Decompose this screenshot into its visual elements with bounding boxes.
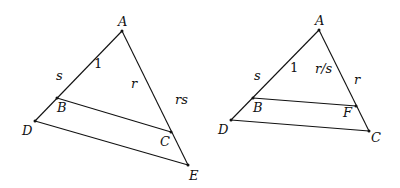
segment-AD [231,30,319,120]
label-C: C [371,130,381,145]
label-length-AB: 1 [290,60,298,75]
label-length-BD: s [254,68,261,83]
point-D [230,119,233,122]
segment-BC [57,98,171,132]
segment-DC [231,120,369,131]
label-length-AE: rs [175,92,188,107]
right-figure: A B F D C 1 s r/s r [217,13,381,145]
label-length-AC: r [354,72,361,87]
left-figure: A B C D E 1 s r rs [21,14,199,183]
label-length-AC: r [131,76,138,91]
label-length-BD: s [56,68,63,83]
label-length-AB: 1 [94,56,102,71]
label-C: C [160,134,170,149]
label-B: B [252,100,263,115]
similar-triangles-diagram: A B C D E 1 s r rs A B F D C 1 s r/s r [0,0,400,188]
point-A [121,30,124,33]
label-length-AF: r/s [315,61,333,76]
label-A: A [117,14,127,29]
point-D [34,120,37,123]
label-A: A [314,13,324,28]
point-F [355,105,358,108]
point-A [318,29,321,32]
label-D: D [21,123,33,138]
label-E: E [188,168,199,183]
segment-AD [35,31,122,121]
label-D: D [217,122,229,137]
label-F: F [342,105,353,120]
point-E [187,164,190,167]
segment-BF [253,98,356,106]
label-B: B [56,100,67,115]
